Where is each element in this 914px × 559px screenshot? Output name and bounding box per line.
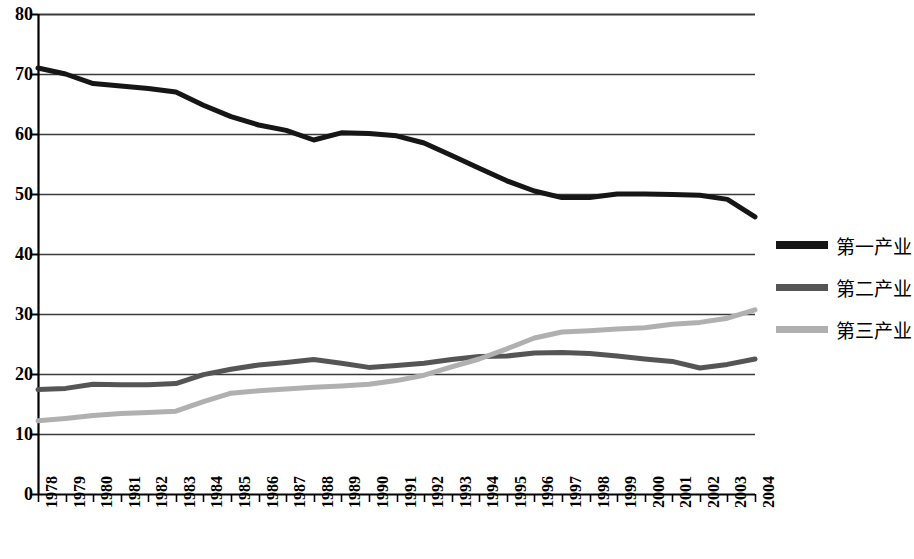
x-axis-label-2004: 2004 [761, 476, 777, 508]
legend-swatch-secondary-industry [776, 284, 828, 291]
legend-item-2[interactable]: 第三产业 [776, 308, 914, 350]
legend-label-tertiary-industry: 第三产业 [836, 316, 912, 343]
x-axis-label-2003: 2003 [733, 476, 749, 508]
x-axis-label-1993: 1993 [458, 476, 474, 508]
chart-legend: 第一产业 第二产业 第三产业 [776, 224, 914, 350]
x-axis-label-1992: 1992 [430, 476, 446, 508]
x-axis-label-1991: 1991 [403, 476, 419, 508]
x-axis-label-1986: 1986 [265, 476, 281, 508]
x-axis-label-1978: 1978 [44, 476, 60, 508]
x-axis-label-1999: 1999 [623, 476, 639, 508]
legend-item-1[interactable]: 第二产业 [776, 266, 914, 308]
legend-item-0[interactable]: 第一产业 [776, 224, 914, 266]
line-chart: 01020304050607080 1978197919801981198219… [0, 0, 914, 559]
x-axis-label-1983: 1983 [182, 476, 198, 508]
x-axis-label-1984: 1984 [209, 476, 225, 508]
x-axis-label-1990: 1990 [375, 476, 391, 508]
legend-swatch-tertiary-industry [776, 326, 828, 333]
x-axis-label-1998: 1998 [596, 476, 612, 508]
legend-label-primary-industry: 第一产业 [836, 232, 912, 259]
x-axis-label-1994: 1994 [485, 476, 501, 508]
x-axis-label-1989: 1989 [347, 476, 363, 508]
x-axis-label-1981: 1981 [127, 476, 143, 508]
x-axis-label-1980: 1980 [99, 476, 115, 508]
x-axis-label-1997: 1997 [568, 476, 584, 508]
x-axis-label-1979: 1979 [72, 476, 88, 508]
x-axis-label-2000: 2000 [651, 476, 667, 508]
x-axis-label-1988: 1988 [320, 476, 336, 508]
legend-label-secondary-industry: 第二产业 [836, 274, 912, 301]
x-axis-label-1985: 1985 [237, 476, 253, 508]
x-axis-label-1987: 1987 [292, 476, 308, 508]
x-axis-label-1982: 1982 [154, 476, 170, 508]
legend-swatch-primary-industry [776, 241, 828, 249]
x-axis-label-2001: 2001 [678, 476, 694, 508]
x-axis-label-1996: 1996 [540, 476, 556, 508]
x-axis-label-1995: 1995 [513, 476, 529, 508]
x-axis-label-2002: 2002 [706, 476, 722, 508]
